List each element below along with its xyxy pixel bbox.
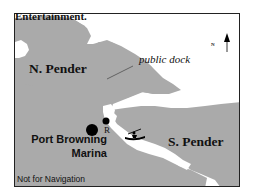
restaurant-dot-icon [103,118,110,125]
s-pender-label: S. Pender [168,135,224,149]
map-canvas [15,14,240,187]
marina-label-line1: Port Browning [27,134,107,145]
map-frame: N N. Pender public dock R Port Browning … [14,13,240,187]
north-arrow-icon [224,33,230,52]
page-caption: Entertainment. [15,11,87,22]
north-label: N [211,42,215,47]
n-pender-label: N. Pender [29,62,87,76]
public-dock-label: public dock [139,54,190,65]
not-for-navigation-note: Not for Navigation [17,175,85,184]
marina-label: Port Browning Marina [27,134,107,159]
marina-label-line2: Marina [27,148,107,159]
